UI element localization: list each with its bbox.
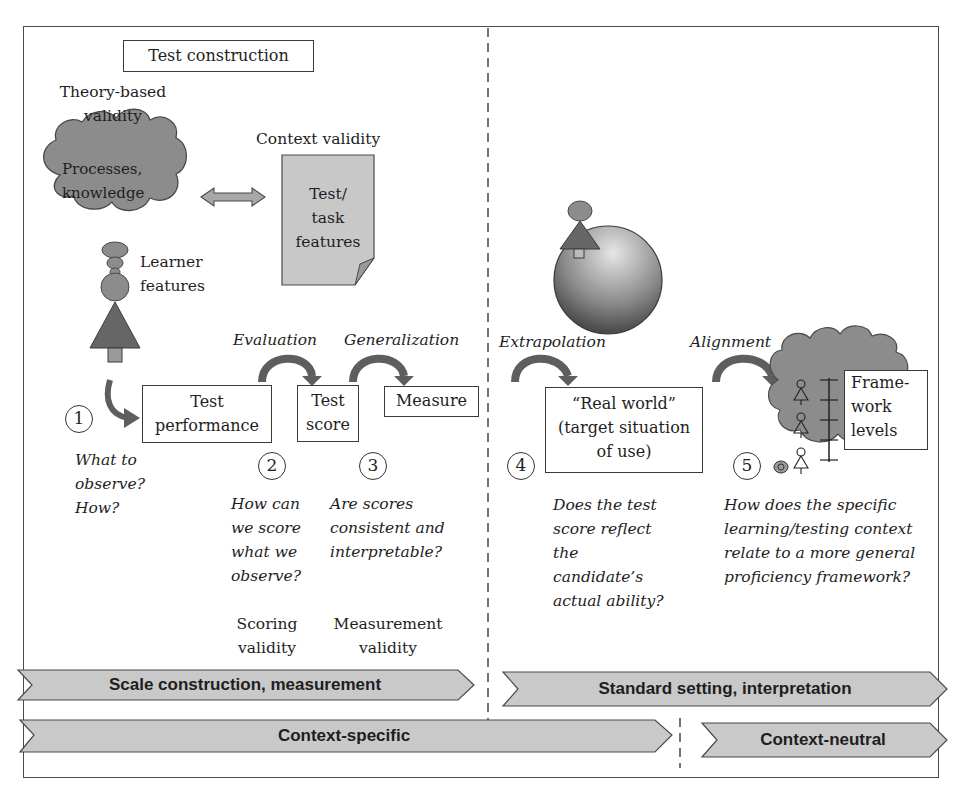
double-arrow-icon [201,188,265,206]
cloud-text: Processes, knowledge [62,157,144,205]
title-label: Test construction [148,46,289,65]
evaluation-label: Evaluation [233,328,317,352]
evaluation-arrow-icon [262,359,322,386]
step-5-number: 5 [733,452,761,480]
step-5-question: How does the specific learning/testing c… [724,493,915,589]
step-1-number: 1 [65,405,93,433]
context-neutral-label: Context-neutral [716,726,930,754]
step-2-number: 2 [258,452,286,480]
title-box: Test construction [123,40,314,72]
step-4-question: Does the test score reflect the candidat… [553,493,664,613]
real-world-box: “Real world” (target situation of use) [545,387,703,473]
test-performance-box: Test performance [142,385,272,443]
scoring-validity-label: Scoring validity [222,612,312,660]
measurement-validity-label: Measurement validity [322,612,454,660]
extrapolation-label: Extrapolation [499,330,606,354]
step-3-number: 3 [359,452,387,480]
step-3-question: Are scores consistent and interpretable? [330,492,445,564]
step-1-question: What to observe? How? [75,448,145,520]
step-4-number: 4 [507,452,535,480]
snail-icon [774,461,788,473]
generalization-label: Generalization [344,328,459,352]
context-validity-label: Context validity [256,127,380,151]
test-score-box: Test score [297,385,359,442]
framework-levels-box: Frame- work levels [844,370,928,450]
learner-figure-icon [90,242,140,362]
theory-based-validity-label: Theory-based validity [48,80,178,128]
step-2-question: How can we score what we observe? [231,492,301,588]
standard-setting-label: Standard setting, interpretation [520,675,930,703]
generalization-arrow-icon [353,359,414,386]
doc-text: Test/ task features [282,182,374,254]
curved-arrow-observe-icon [108,380,140,428]
learner-features-label: Learner features [140,250,205,298]
measure-box: Measure [384,386,479,417]
scale-construction-label: Scale construction, measurement [30,671,460,699]
extrapolation-arrow-icon [515,359,578,386]
context-specific-label: Context-specific [34,722,654,750]
alignment-label: Alignment [690,330,771,354]
